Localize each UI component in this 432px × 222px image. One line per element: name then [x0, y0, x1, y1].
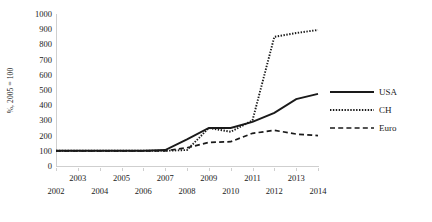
x-axis-tick-labels: 2002200320042005200620072008200920102011… [0, 168, 432, 208]
y-tick-label: 1000 [35, 10, 52, 19]
y-tick-label: 500 [39, 86, 52, 95]
x-axis-line [56, 166, 319, 167]
series-line-usa [56, 94, 318, 151]
y-tick-label: 300 [39, 116, 52, 125]
y-tick-label: 400 [39, 101, 52, 110]
x-tick-label: 2002 [48, 187, 65, 196]
legend-item-ch[interactable]: CH [330, 102, 428, 118]
x-tick-label: 2011 [244, 174, 261, 183]
x-tick-label: 2004 [91, 187, 108, 196]
plot-area [56, 14, 318, 166]
x-tick-label: 2014 [310, 187, 327, 196]
y-tick-label: 700 [39, 55, 52, 64]
legend-line-swatch-ch-icon [330, 105, 374, 115]
x-tick-mark [56, 168, 57, 171]
x-tick-label: 2006 [135, 187, 152, 196]
x-tick-mark [274, 168, 275, 171]
x-tick-label: 2009 [200, 174, 217, 183]
series-line-euro [56, 130, 318, 151]
x-tick-mark [296, 168, 297, 171]
legend-label: CH [379, 106, 392, 115]
x-tick-label: 2005 [113, 174, 130, 183]
y-axis-title-text: %, 2005 = 100 [7, 67, 16, 113]
x-tick-mark [78, 168, 79, 171]
x-tick-label: 2010 [222, 187, 239, 196]
y-tick-label: 100 [39, 147, 52, 156]
legend-item-euro[interactable]: Euro [330, 120, 428, 136]
x-tick-label: 2007 [157, 174, 174, 183]
x-tick-mark [187, 168, 188, 171]
x-tick-label: 2008 [179, 187, 196, 196]
x-tick-mark [100, 168, 101, 171]
series-lines [56, 14, 318, 166]
x-tick-mark [165, 168, 166, 171]
chart-legend: USACHEuro [330, 84, 428, 138]
y-axis-tick-labels: 01002003004005006007008009001000 [18, 0, 54, 180]
y-tick-label: 800 [39, 40, 52, 49]
legend-label: USA [379, 88, 397, 97]
x-tick-label: 2013 [288, 174, 305, 183]
series-line-ch [56, 30, 318, 151]
x-tick-mark [143, 168, 144, 171]
legend-label: Euro [379, 124, 397, 133]
y-tick-label: 900 [39, 25, 52, 34]
x-tick-mark [122, 168, 123, 171]
x-tick-mark [318, 168, 319, 171]
x-tick-label: 2012 [266, 187, 283, 196]
x-tick-mark [231, 168, 232, 171]
legend-item-usa[interactable]: USA [330, 84, 428, 100]
y-tick-label: 600 [39, 71, 52, 80]
x-tick-label: 2003 [69, 174, 86, 183]
legend-line-swatch-usa-icon [330, 87, 374, 97]
y-tick-label: 200 [39, 131, 52, 140]
x-tick-mark [209, 168, 210, 171]
line-chart: %, 2005 = 100 01002003004005006007008009… [0, 0, 432, 222]
x-tick-mark [253, 168, 254, 171]
legend-line-swatch-euro-icon [330, 123, 374, 133]
